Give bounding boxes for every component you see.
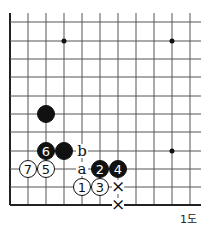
move-number: 7 — [24, 162, 32, 177]
move-number: 6 — [42, 144, 50, 159]
move-number: 2 — [96, 162, 104, 177]
move-number: 5 — [42, 162, 50, 177]
go-board: ba××6752413 — [0, 0, 211, 230]
letter-mark-a: a — [78, 160, 87, 178]
move-number: 1 — [78, 180, 86, 195]
black-stone — [56, 143, 73, 160]
star-point — [170, 149, 175, 154]
letter-mark-b: b — [77, 142, 87, 160]
cross-mark: × — [111, 176, 125, 196]
black-stone — [38, 106, 55, 123]
move-number: 4 — [114, 162, 122, 177]
star-point — [170, 39, 175, 44]
cross-mark: × — [111, 194, 125, 214]
move-number: 3 — [96, 180, 104, 195]
diagram-caption: 1도 — [180, 210, 197, 226]
star-point — [62, 39, 67, 44]
